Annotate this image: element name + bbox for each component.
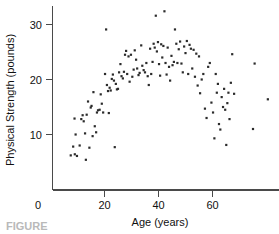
data-point (205, 117, 207, 119)
data-point (218, 123, 220, 125)
data-point (130, 54, 132, 56)
data-point (86, 114, 88, 116)
data-point (123, 71, 125, 73)
data-point (202, 73, 204, 75)
data-point (120, 75, 122, 77)
data-point (96, 111, 98, 113)
scatter-plot-canvas: 30 20 10 0 20 40 60 Age (years) Physical… (0, 0, 279, 234)
data-point (88, 147, 90, 149)
data-point (182, 71, 184, 73)
data-point (176, 62, 178, 64)
data-point (153, 43, 155, 45)
data-point (151, 61, 153, 63)
data-point (72, 146, 74, 148)
data-point (195, 53, 197, 55)
data-point (135, 59, 137, 61)
data-point (92, 91, 94, 93)
data-point (207, 66, 209, 68)
data-point (199, 92, 201, 94)
data-point (167, 47, 169, 49)
data-point (194, 76, 196, 78)
x-tick-label-0: 0 (35, 199, 41, 211)
data-point (166, 73, 168, 75)
data-point (87, 100, 89, 102)
data-point (129, 81, 131, 83)
data-point (213, 137, 215, 139)
data-point (80, 118, 82, 120)
data-point (107, 90, 109, 92)
data-point (223, 88, 225, 90)
data-point (92, 135, 94, 137)
data-point (139, 72, 141, 74)
x-tick-label-20: 20 (98, 199, 110, 211)
data-point (154, 47, 156, 49)
data-point (147, 75, 149, 77)
data-point (113, 80, 115, 82)
data-point (112, 73, 114, 75)
data-point (124, 54, 126, 56)
data-point (219, 128, 221, 130)
data-point (193, 49, 195, 51)
data-point (252, 128, 254, 130)
data-point (82, 114, 84, 116)
data-point (117, 88, 119, 90)
data-point (158, 63, 160, 65)
data-point (174, 28, 176, 30)
data-point (115, 83, 117, 85)
data-point (73, 117, 75, 119)
data-point (227, 92, 229, 94)
data-point (267, 98, 269, 100)
data-point (70, 154, 72, 156)
data-point (141, 65, 143, 67)
data-point (170, 55, 172, 57)
data-point (254, 62, 256, 64)
scatter-plot-figure: 30 20 10 0 20 40 60 Age (years) Physical… (0, 0, 279, 234)
data-point (190, 48, 192, 50)
data-point (84, 132, 86, 134)
y-axis-ticks (46, 25, 53, 135)
y-tick-label-20: 20 (30, 74, 42, 86)
data-point (144, 71, 146, 73)
data-point (173, 61, 175, 63)
data-point (90, 105, 92, 107)
data-point (136, 67, 138, 69)
data-point (230, 82, 232, 84)
data-point (197, 84, 199, 86)
data-point (137, 74, 139, 76)
data-point (102, 111, 104, 113)
scatter-points-layer (70, 10, 269, 161)
data-point (74, 153, 76, 155)
data-point (101, 103, 103, 105)
data-point (215, 73, 217, 75)
y-tick-label-10: 10 (30, 129, 42, 141)
data-point (110, 89, 112, 91)
data-point (106, 84, 108, 86)
data-point (212, 111, 214, 113)
data-point (126, 73, 128, 75)
data-point (186, 40, 188, 42)
data-point (231, 53, 233, 55)
data-point (105, 28, 107, 30)
data-point (187, 73, 189, 75)
data-point (169, 80, 171, 82)
x-tick-label-40: 40 (152, 199, 164, 211)
data-point (183, 45, 185, 47)
data-point (108, 112, 110, 114)
data-point (163, 10, 165, 12)
data-point (79, 144, 81, 146)
data-point (133, 69, 135, 71)
data-point (168, 66, 170, 68)
data-point (111, 78, 113, 80)
data-point (134, 49, 136, 51)
data-point (164, 62, 166, 64)
data-point (159, 75, 161, 77)
data-point (210, 102, 212, 104)
data-point (191, 67, 193, 69)
data-point (233, 93, 235, 95)
data-point (180, 62, 182, 64)
data-point (83, 120, 85, 122)
data-point (122, 77, 124, 79)
x-axis-ticks (105, 190, 213, 197)
x-axis-title: Age (years) (132, 216, 189, 228)
data-point (157, 41, 159, 43)
